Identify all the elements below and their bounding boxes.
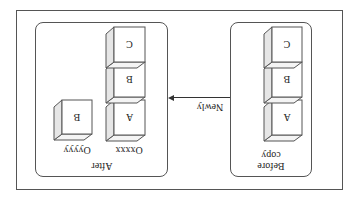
copy-arrow-line: [174, 97, 230, 98]
block-label: A: [272, 112, 302, 122]
oxxxx-block-a: A: [101, 99, 145, 141]
oxxxx-block-c: C: [101, 26, 145, 68]
arrow-label: Newly: [193, 102, 227, 112]
before-copy-label-line1: Before: [246, 161, 296, 171]
block-label: C: [272, 39, 302, 49]
before-copy-label-line2: copy: [246, 150, 296, 160]
diagram-canvas: Before copy A B C Newly After Oxxxx Oyyy…: [0, 0, 359, 198]
block-label: B: [114, 74, 145, 84]
block-label: B: [62, 112, 92, 122]
oyyyy-block-b: B: [48, 98, 92, 140]
before-block-a: A: [258, 99, 302, 141]
block-label: C: [114, 39, 145, 49]
block-label: B: [272, 74, 302, 84]
after-label: After: [80, 161, 124, 171]
before-block-c: C: [258, 26, 302, 68]
block-label: A: [114, 112, 145, 122]
oxxxx-label: Oxxxx: [109, 145, 149, 155]
oyyyy-label: Oyyyy: [57, 145, 97, 155]
arrow-head-icon: [168, 95, 174, 101]
